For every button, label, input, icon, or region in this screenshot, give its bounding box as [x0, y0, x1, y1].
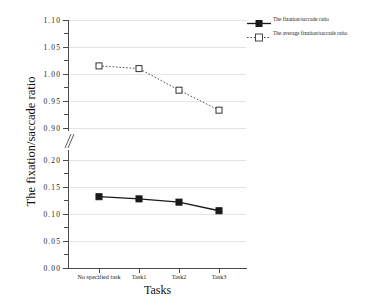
data-point-marker	[136, 66, 142, 72]
chart-container: 1.10 1.05 1.00 0.95 0.90 0.20 0.15 0.10 …	[0, 0, 385, 306]
data-point-marker	[96, 63, 102, 69]
legend-swatch-open-square-icon	[247, 29, 271, 40]
legend: The fixation/saccade ratio The average f…	[247, 14, 379, 42]
average-ratio-line	[99, 66, 219, 110]
fixation-ratio-markers	[96, 194, 222, 214]
series-layer	[0, 0, 385, 306]
legend-label: The fixation/saccade ratio	[273, 17, 329, 22]
data-point-marker	[136, 196, 142, 202]
data-point-marker	[96, 194, 102, 200]
legend-item-fixation-ratio[interactable]: The fixation/saccade ratio	[247, 14, 379, 26]
fixation-ratio-line	[99, 197, 219, 211]
legend-swatch-filled-square-icon	[247, 15, 271, 26]
legend-label: The average fixation/saccade ratio	[273, 31, 347, 36]
data-point-marker	[216, 107, 222, 113]
legend-item-average-ratio[interactable]: The average fixation/saccade ratio	[247, 28, 379, 40]
data-point-marker	[176, 199, 182, 205]
data-point-marker	[216, 208, 222, 214]
average-ratio-markers	[96, 63, 222, 113]
data-point-marker	[176, 87, 182, 93]
